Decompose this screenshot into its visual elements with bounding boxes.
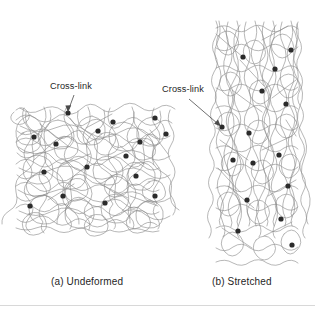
- panel-a-chain-network: [2, 103, 179, 236]
- panel-b-chain-network: [208, 21, 311, 265]
- caption-stretched: (b) Stretched: [212, 276, 272, 287]
- crosslink-label-b: Cross-link: [162, 84, 204, 95]
- caption-undeformed: (a) Undeformed: [51, 276, 123, 287]
- crosslink-leader-a: [65, 95, 74, 113]
- polymer-crosslink-figure: Cross-link Cross-link (a) Undeformed (b)…: [0, 0, 315, 311]
- crosslink-label-a: Cross-link: [50, 81, 92, 92]
- figure-canvas: [0, 0, 315, 311]
- bottom-divider: [0, 305, 315, 306]
